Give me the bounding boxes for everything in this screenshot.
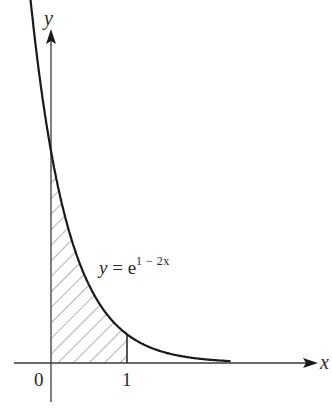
y-axis-label: y xyxy=(44,8,53,28)
origin-label: 0 xyxy=(34,370,44,389)
function-graph: y x 0 1 y = e1 − 2x xyxy=(0,0,332,408)
curve-equation-label: y = e1 − 2x xyxy=(99,258,170,277)
graph-canvas xyxy=(0,0,332,408)
equation-base: e xyxy=(128,257,136,278)
tick-label-1: 1 xyxy=(122,370,132,389)
x-axis-label: x xyxy=(320,352,329,372)
equation-equals: = xyxy=(107,257,127,278)
equation-exponent: 1 − 2x xyxy=(136,254,170,268)
